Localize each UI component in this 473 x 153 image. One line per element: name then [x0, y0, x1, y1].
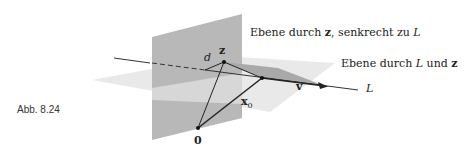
- label-origin: 0: [194, 134, 202, 147]
- label-distance-d: d: [204, 51, 211, 64]
- diagram-canvas: [0, 0, 473, 153]
- label-line-l: L: [366, 82, 373, 95]
- point-z: [222, 60, 226, 64]
- label-plane-through-l-z: Ebene durch L und z: [341, 57, 458, 70]
- point-origin: [196, 126, 200, 130]
- label-vector-x0: x0: [241, 95, 253, 110]
- label-plane-perpendicular: Ebene durch z, senkrecht zu L: [250, 26, 421, 39]
- figure-caption: Abb. 8.24: [17, 104, 60, 115]
- label-point-z: z: [219, 44, 225, 57]
- label-vector-v: v: [296, 80, 302, 93]
- line-l-left: [114, 58, 150, 63]
- point-x0: [260, 76, 264, 80]
